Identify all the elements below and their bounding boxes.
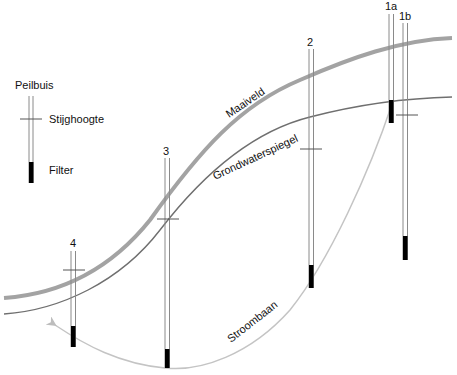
stroombaan-curve	[55, 104, 392, 369]
legend: Peilbuis Stijghoogte Filter	[15, 79, 104, 183]
grondwaterspiegel-label: Grondwaterspiegel	[211, 132, 300, 182]
peilbuis-4: 4	[63, 237, 85, 347]
peilbuis-4-filter	[71, 326, 76, 347]
peilbuis-3-label: 3	[163, 145, 169, 157]
peilbuis-1a: 1a	[385, 0, 398, 123]
peilbuis-1b: 1b	[396, 10, 418, 260]
legend-tube-icon	[20, 96, 42, 183]
legend-filter-label: Filter	[49, 164, 74, 176]
peilbuis-1a-filter	[389, 100, 394, 123]
peilbuis-4-label: 4	[70, 237, 76, 249]
peilbuis-2-filter	[309, 265, 314, 288]
peilbuis-3: 3	[157, 145, 179, 368]
peilbuis-1b-filter	[403, 236, 408, 260]
groundwater-diagram: Maaiveld Grondwaterspiegel Stroombaan Pe…	[0, 0, 457, 375]
peilbuis-3-filter	[165, 349, 170, 368]
legend-filter-icon	[29, 162, 34, 183]
legend-peilbuis-label: Peilbuis	[15, 79, 54, 91]
peilbuis-2-label: 2	[307, 36, 313, 48]
stroombaan-label: Stroombaan	[225, 298, 280, 344]
peilbuis-1b-label: 1b	[399, 10, 411, 22]
peilbuis-1a-label: 1a	[385, 0, 398, 12]
legend-stijghoogte-label: Stijghoogte	[49, 113, 104, 125]
